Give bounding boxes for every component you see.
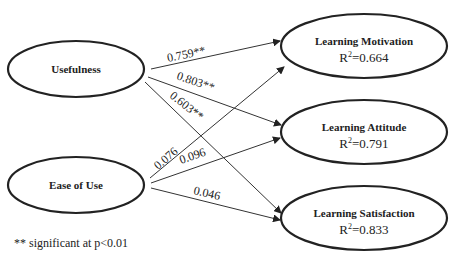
node-ease-of-use: Ease of Use xyxy=(8,157,144,213)
coef-ease-attitude: 0.096 xyxy=(177,145,207,167)
coef-usefulness-attitude: 0.803** xyxy=(175,69,216,95)
r-squared: R2=0.791 xyxy=(339,136,388,151)
node-label: Ease of Use xyxy=(49,179,103,191)
coef-ease-motivation: 0.076 xyxy=(151,144,181,172)
r-squared: R2=0.833 xyxy=(339,222,388,237)
node-label: Learning Motivation xyxy=(315,35,413,47)
node-label: Learning Satisfaction xyxy=(313,207,414,219)
node-learning-motivation: Learning Motivation R2=0.664 xyxy=(281,14,447,78)
coef-ease-satisfaction: 0.046 xyxy=(192,183,221,203)
significance-note: ** significant at p<0.01 xyxy=(14,236,128,250)
r-squared: R2=0.664 xyxy=(339,50,389,65)
node-learning-attitude: Learning Attitude R2=0.791 xyxy=(281,100,447,164)
node-label: Learning Attitude xyxy=(322,121,407,133)
node-usefulness: Usefulness xyxy=(8,41,144,97)
coef-usefulness-satisfaction: 0.603** xyxy=(167,88,206,123)
node-label: Usefulness xyxy=(51,63,101,75)
node-learning-satisfaction: Learning Satisfaction R2=0.833 xyxy=(281,186,447,250)
path-diagram: 0.759** 0.803** 0.603** 0.076 0.096 0.04… xyxy=(0,0,461,268)
